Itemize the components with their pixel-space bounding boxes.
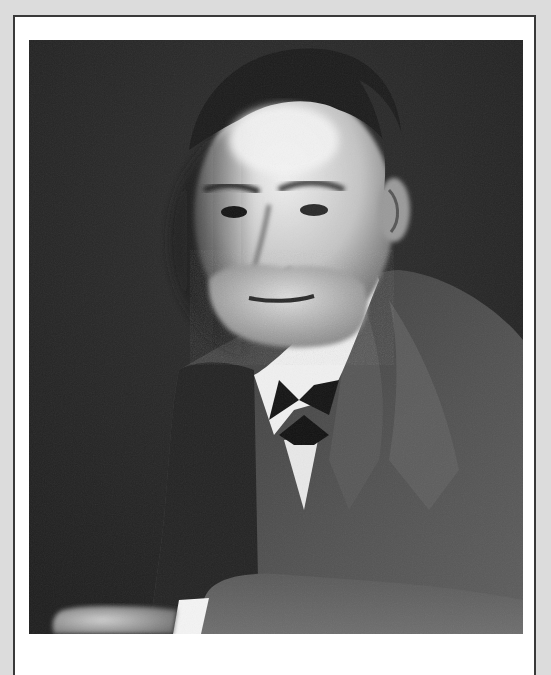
portrait-photo: Portrait photograph bbox=[29, 40, 523, 634]
grain-overlay bbox=[29, 40, 523, 634]
portrait-illustration bbox=[29, 40, 523, 634]
